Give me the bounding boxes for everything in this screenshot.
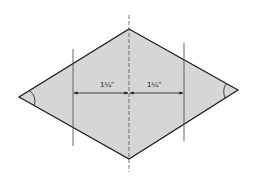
diamond-diagram: 1¼" 1¼" bbox=[0, 0, 255, 177]
right-dimension-label: 1¼" bbox=[147, 80, 161, 89]
diamond-shape bbox=[19, 29, 238, 159]
left-dimension-label: 1¼" bbox=[100, 80, 114, 89]
